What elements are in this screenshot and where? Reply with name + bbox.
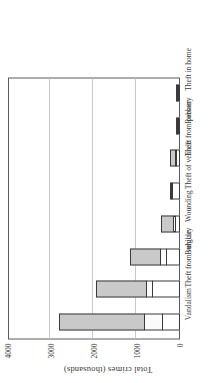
bar-segment <box>96 280 147 297</box>
y-tick-label: 2000 <box>90 343 99 358</box>
bar-theft-from-person[interactable] <box>170 149 179 166</box>
bar-theft-in-home[interactable] <box>176 84 179 101</box>
bar-segment <box>162 313 180 330</box>
bar-segment <box>172 182 180 199</box>
bar-segment <box>166 248 180 265</box>
bar-wounding[interactable] <box>161 215 179 232</box>
bar-segment <box>59 313 145 330</box>
bar-theft-of-vehicle[interactable] <box>170 182 179 199</box>
bar-segment <box>178 84 180 101</box>
bar-burglary[interactable] <box>130 248 179 265</box>
bar-segment <box>178 117 180 134</box>
bar-vandalism[interactable] <box>59 313 179 330</box>
y-tick-label: 1000 <box>133 343 142 358</box>
plot-area <box>8 77 180 339</box>
bar-segment <box>176 149 180 166</box>
bar-group <box>9 78 179 338</box>
category-label: Theft in home <box>184 47 193 90</box>
bar-segment <box>175 215 180 232</box>
category-label: Wounding <box>184 190 193 221</box>
y-tick-label: 0 <box>176 343 185 347</box>
category-label: Robbery <box>184 97 193 123</box>
y-axis-title: Total crimes (thousands) <box>0 363 216 377</box>
bar-theft-from-vehicle[interactable] <box>96 280 179 297</box>
chart-figure: Total crimes (thousands) 010002000300040… <box>0 0 216 383</box>
category-label: Vandalism <box>184 288 193 320</box>
bar-robbery[interactable] <box>176 117 179 134</box>
y-tick-label: 3000 <box>47 343 56 358</box>
x-axis-category-labels: VandalismTheft from vehicleBurglaryWound… <box>182 77 216 339</box>
bar-segment <box>152 280 180 297</box>
y-tick-label: 4000 <box>4 343 13 358</box>
category-label: Burglary <box>184 227 193 254</box>
bar-segment <box>130 248 161 265</box>
y-axis-title-text: Total crimes (thousands) <box>64 365 153 375</box>
y-axis-tick-labels: 01000200030004000 <box>0 341 216 363</box>
bar-segment <box>144 313 163 330</box>
